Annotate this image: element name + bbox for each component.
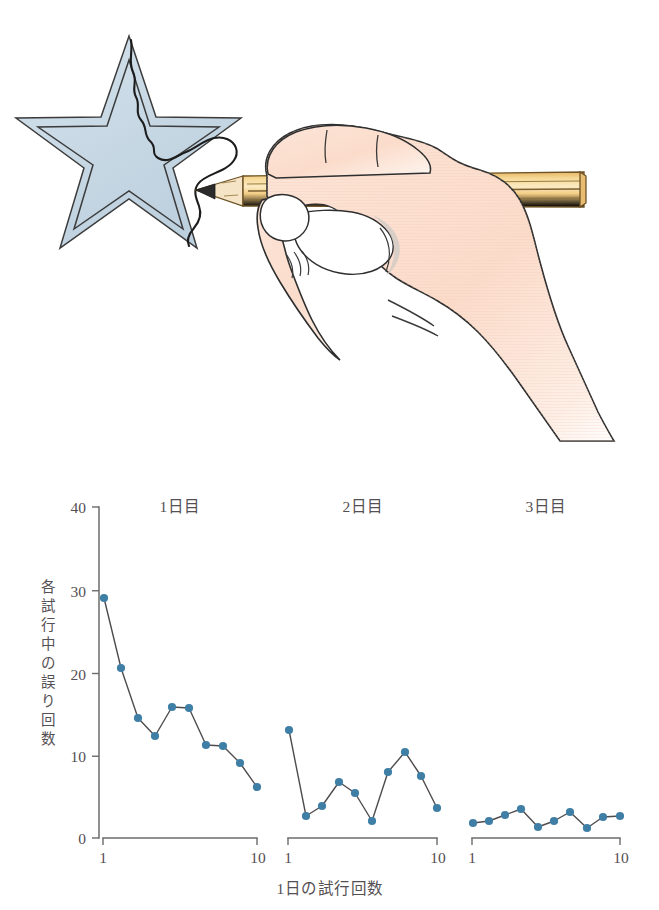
pencil-lead bbox=[196, 184, 215, 199]
panel-3-point bbox=[583, 824, 591, 832]
star-band bbox=[16, 36, 241, 248]
y-tick-label-20: 20 bbox=[71, 666, 87, 683]
panel-3-point bbox=[534, 823, 542, 831]
y-axis-caption: 各 試 行 中 の 誤 り 回 数 bbox=[41, 579, 56, 747]
panel-3-point bbox=[485, 817, 493, 825]
panel-2-point bbox=[302, 812, 310, 820]
panel-1-point bbox=[236, 759, 244, 767]
panel-2-series bbox=[285, 726, 441, 825]
y-caption-char-4: の bbox=[41, 655, 55, 671]
panel-1-point bbox=[100, 594, 108, 602]
panel-1-point bbox=[202, 741, 210, 749]
pencil-end-cap bbox=[580, 172, 586, 207]
panel-3-series bbox=[469, 805, 624, 832]
error-count-line-charts: 40 30 20 10 0 各 試 行 中 の 誤 り 回 数 1日目 bbox=[0, 470, 659, 910]
panel-2-point bbox=[335, 778, 343, 786]
star-tracing-illustration bbox=[0, 0, 659, 470]
panel-1-point bbox=[185, 704, 193, 712]
charts-svg: 40 30 20 10 0 各 試 行 中 の 誤 り 回 数 1日目 bbox=[0, 470, 659, 910]
thumb-nail bbox=[260, 195, 309, 241]
y-caption-char-1: 試 bbox=[41, 598, 56, 614]
panel-1-line bbox=[104, 598, 257, 787]
panel-1-point bbox=[134, 714, 142, 722]
y-caption-char-0: 各 bbox=[41, 579, 56, 595]
panel-day-2: 2日目 1 10 bbox=[284, 498, 446, 866]
star-template bbox=[16, 36, 241, 248]
panel-1-x-label-10: 10 bbox=[250, 849, 266, 866]
figure-root: 40 30 20 10 0 各 試 行 中 の 誤 り 回 数 1日目 bbox=[0, 0, 659, 910]
y-tick-label-30: 30 bbox=[71, 583, 87, 600]
panel-day-3: 3日目 1 10 bbox=[468, 498, 629, 866]
panel-3-line bbox=[473, 809, 620, 828]
y-tick-label-0: 0 bbox=[78, 830, 86, 847]
panel-2-x-label-10: 10 bbox=[430, 849, 446, 866]
panel-3-point bbox=[616, 812, 624, 820]
panel-3-x-label-1: 1 bbox=[468, 849, 476, 866]
illustration-svg bbox=[0, 0, 659, 470]
panel-1-point bbox=[253, 783, 261, 791]
y-tick-label-40: 40 bbox=[71, 499, 87, 516]
y-caption-char-2: 行 bbox=[41, 617, 55, 633]
y-caption-char-6: り bbox=[41, 693, 55, 709]
panel-3-x-label-10: 10 bbox=[613, 849, 629, 866]
y-axis: 40 30 20 10 0 bbox=[71, 499, 100, 847]
panel-1-title: 1日目 bbox=[159, 498, 200, 515]
panel-2-title: 2日目 bbox=[342, 498, 383, 515]
panel-2-point bbox=[351, 789, 359, 797]
panel-2-point bbox=[285, 726, 293, 734]
x-axis-caption: 1日の試行回数 bbox=[276, 880, 383, 897]
panel-2-point bbox=[433, 804, 441, 812]
panel-2-x-label-1: 1 bbox=[284, 849, 292, 866]
y-caption-char-8: 数 bbox=[41, 731, 56, 747]
panel-2-line bbox=[289, 730, 437, 821]
panel-3-point bbox=[517, 805, 525, 813]
panel-1-x-label-1: 1 bbox=[99, 849, 107, 866]
panel-2-point bbox=[368, 817, 376, 825]
panel-2-point bbox=[384, 768, 392, 776]
index-finger bbox=[267, 125, 430, 178]
y-caption-char-7: 回 bbox=[41, 712, 55, 728]
y-tick-label-10: 10 bbox=[71, 748, 87, 765]
panel-1-point bbox=[117, 664, 125, 672]
panel-1-point bbox=[168, 703, 176, 711]
panel-day-1: 1日目 1 10 bbox=[99, 498, 266, 866]
panel-2-point bbox=[401, 748, 409, 756]
panel-1-series bbox=[100, 594, 261, 791]
y-caption-char-3: 中 bbox=[41, 636, 55, 652]
panel-3-point bbox=[469, 819, 477, 827]
panel-3-point bbox=[566, 808, 574, 816]
panel-1-point bbox=[219, 742, 227, 750]
panel-2-point bbox=[318, 802, 326, 810]
panel-1-point bbox=[151, 732, 159, 740]
panel-3-point bbox=[501, 811, 509, 819]
panel-3-point bbox=[550, 817, 558, 825]
panel-2-point bbox=[417, 772, 425, 780]
panel-3-point bbox=[599, 813, 607, 821]
hand-creases bbox=[388, 300, 438, 336]
y-caption-char-5: 誤 bbox=[41, 674, 55, 690]
panel-3-title: 3日目 bbox=[525, 498, 566, 515]
